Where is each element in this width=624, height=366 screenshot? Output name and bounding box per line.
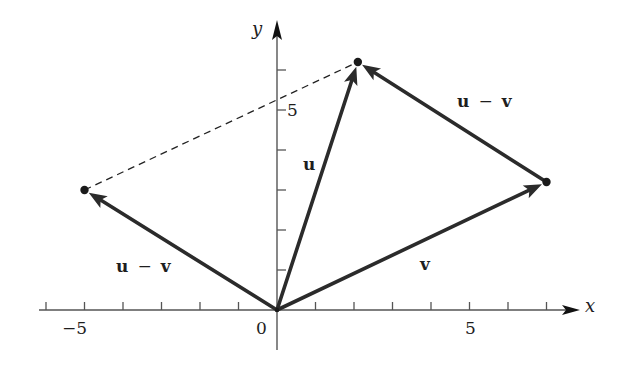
endpoint-dot bbox=[354, 58, 362, 66]
vector-plot bbox=[0, 0, 624, 366]
y-tick-label-pos5: 5 bbox=[287, 102, 298, 119]
x-tick-label-pos5: 5 bbox=[465, 320, 476, 337]
vector-v bbox=[277, 184, 542, 310]
label-minus: − bbox=[137, 256, 151, 276]
x-tick-label-zero: 0 bbox=[256, 320, 267, 337]
vector-u-label: u bbox=[303, 156, 315, 173]
endpoint-dot bbox=[80, 186, 88, 194]
vector-v-label: v bbox=[420, 256, 430, 273]
label-v: v bbox=[161, 256, 171, 276]
x-axis-label: x bbox=[585, 297, 595, 315]
label-v: v bbox=[502, 91, 512, 111]
vector-u-minus-v-translated bbox=[362, 65, 546, 182]
vector-u-minus-v-origin bbox=[89, 193, 277, 310]
label-minus: − bbox=[478, 91, 492, 111]
x-tick-label-neg5: −5 bbox=[62, 320, 87, 337]
y-axis-label: y bbox=[252, 20, 262, 38]
vector-shaft bbox=[277, 190, 529, 310]
vector-u-minus-v-label-left: u−v bbox=[116, 258, 171, 275]
dashed-parallelogram-edge bbox=[85, 62, 358, 190]
arrowhead-icon bbox=[89, 193, 108, 208]
dashed-line bbox=[85, 62, 358, 190]
label-u: u bbox=[116, 256, 128, 276]
arrowhead-icon bbox=[362, 65, 381, 81]
axes bbox=[39, 20, 580, 350]
vector-diagram: y x −5 0 5 5 u v u−v u−v bbox=[0, 0, 624, 366]
origin-dot bbox=[275, 308, 279, 312]
endpoint-dot bbox=[542, 178, 550, 186]
label-u: u bbox=[457, 91, 469, 111]
vector-u-minus-v-label-right: u−v bbox=[457, 93, 512, 110]
vector-shaft bbox=[374, 72, 547, 182]
